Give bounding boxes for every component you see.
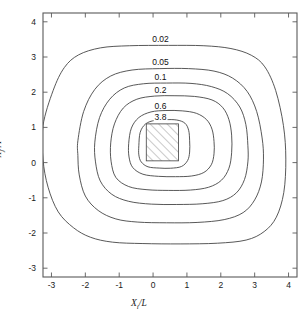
y-axis-label-denom: /A [0,141,3,149]
x-axis-label-denom: /L [139,298,147,308]
contour-label-0.2: 0.2 [153,86,168,95]
contour-label-0.1: 0.1 [153,73,168,82]
y-tick-label: 2 [22,87,36,97]
x-tick-label: 4 [286,280,291,290]
x-tick-label: 2 [218,280,223,290]
y-axis-label-sub: j [0,150,6,152]
x-tick-label: -3 [48,280,56,290]
x-tick-label: 1 [185,280,190,290]
y-axis-label: Xj/A [0,141,6,157]
hatch-fill-rect [146,124,178,161]
y-tick-label: 1 [22,122,36,132]
y-tick-label: -3 [22,263,36,273]
y-tick-label: 4 [22,17,36,27]
x-tick-label: 0 [151,280,156,290]
y-axis-label-main: X [0,152,3,158]
y-tick-label: -2 [22,228,36,238]
contour-label-3.8: 3.8 [153,112,168,121]
contour-label-0.02: 0.02 [151,34,171,43]
y-tick-label: 0 [22,158,36,168]
y-tick-label: 3 [22,52,36,62]
contour-plot-figure [0,0,308,315]
hatched-source-region [146,124,178,161]
x-tick-label: -2 [82,280,90,290]
contour-label-0.6: 0.6 [153,101,168,110]
x-tick-label: -1 [115,280,123,290]
contour-label-0.05: 0.05 [151,57,171,66]
y-tick-label: -1 [22,193,36,203]
x-tick-label: 3 [252,280,257,290]
x-axis-label: Xi/L [131,298,147,311]
